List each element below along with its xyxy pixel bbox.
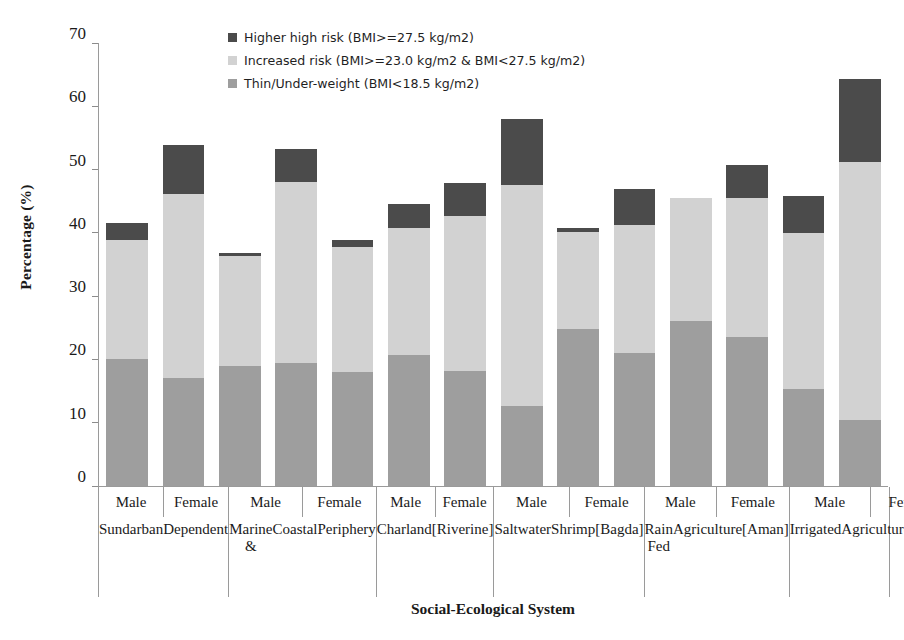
chart-legend: Higher high risk (BMI>=27.5 kg/m2)Increa… (228, 27, 585, 96)
x-axis-title: Social-Ecological System (98, 600, 888, 618)
legend-label: Thin/Under-weight (BMI<18.5 kg/m2) (244, 76, 479, 91)
x-tick-label-male: Male (790, 487, 871, 517)
bar-segment (163, 145, 205, 194)
bar-segment (275, 182, 317, 362)
legend-swatch-icon (228, 56, 237, 65)
bar-segment (783, 389, 825, 486)
x-tick-label-male: Male (229, 487, 303, 517)
x-tick-label-male: Male (377, 487, 436, 517)
bar-segment (219, 366, 261, 486)
bar-segment (106, 240, 148, 359)
bar[interactable] (557, 228, 599, 486)
bar[interactable] (219, 253, 261, 486)
x-group: MaleFemaleSundarbanDependent (99, 487, 229, 597)
x-tick-label-male: Male (494, 487, 569, 517)
bar-segment (332, 372, 374, 486)
legend-item[interactable]: Thin/Under-weight (BMI<18.5 kg/m2) (228, 73, 585, 94)
legend-label: Increased risk (BMI>=23.0 kg/m2 & BMI<27… (244, 53, 585, 68)
bar-segment (726, 165, 768, 199)
bar[interactable] (614, 189, 656, 486)
x-group: MaleFemaleCharland[Riverine] (377, 487, 495, 597)
bar-segment (839, 420, 881, 486)
bar-segment (388, 355, 430, 486)
bar-segment (726, 337, 768, 486)
x-group: MaleFemaleSaltwaterShrimp[Bagda] (494, 487, 644, 597)
bar[interactable] (444, 183, 486, 486)
bar-segment (163, 194, 205, 379)
bar-segment (501, 185, 543, 405)
x-tick-label-male: Male (645, 487, 718, 517)
x-tick-label-female: Female (164, 487, 228, 517)
bar-segment (614, 353, 656, 486)
bar[interactable] (839, 79, 881, 486)
bar[interactable] (726, 165, 768, 486)
x-tick-label-female: Female (570, 487, 644, 517)
x-tick-label-female: Female (303, 487, 376, 517)
x-group: MaleFemaleRain FedAgriculture[Aman] (645, 487, 790, 597)
x-group: MaleFemaleMarine &CoastalPeriphery (229, 487, 377, 597)
bar[interactable] (501, 119, 543, 486)
bar-segment (219, 256, 261, 365)
bar-segment (839, 79, 881, 162)
bar[interactable] (783, 196, 825, 486)
bar-segment (444, 183, 486, 216)
bar-segment (106, 359, 148, 486)
bar-segment (106, 223, 148, 241)
legend-swatch-icon (228, 33, 237, 42)
bar-segment (332, 247, 374, 372)
x-gender-row: MaleFemale (494, 487, 643, 517)
bar-segment (388, 228, 430, 355)
x-group-label: SaltwaterShrimp[Bagda] (494, 517, 643, 597)
legend-label: Higher high risk (BMI>=27.5 kg/m2) (244, 30, 474, 45)
x-group-label: SundarbanDependent (99, 517, 228, 597)
x-group-label: IrrigatedAgriculture[Boro] (790, 517, 904, 597)
x-gender-row: MaleFemale (229, 487, 376, 517)
bar[interactable] (106, 223, 148, 486)
stacked-bar-chart: Percentage (%) 706050403020100 Higher hi… (0, 0, 904, 640)
bar-segment (557, 329, 599, 486)
bar-segment (839, 162, 881, 420)
bar[interactable] (275, 149, 317, 486)
y-axis-ticks: 706050403020100 (0, 0, 98, 640)
bar-segment (557, 232, 599, 329)
bar-segment (783, 196, 825, 233)
bar-segment (670, 198, 712, 321)
bar-segment (332, 240, 374, 247)
bar[interactable] (670, 198, 712, 486)
bar-segment (163, 378, 205, 486)
legend-item[interactable]: Higher high risk (BMI>=27.5 kg/m2) (228, 27, 585, 48)
bar[interactable] (388, 204, 430, 486)
x-tick-label-female: Female (436, 487, 494, 517)
x-tick-label-male: Male (99, 487, 164, 517)
bar-segment (670, 321, 712, 486)
bar[interactable] (332, 240, 374, 486)
legend-swatch-icon (228, 79, 237, 88)
legend-item[interactable]: Increased risk (BMI>=23.0 kg/m2 & BMI<27… (228, 50, 585, 71)
bar-segment (501, 406, 543, 486)
bar-segment (444, 371, 486, 486)
x-gender-row: MaleFemale (99, 487, 228, 517)
x-gender-row: MaleFemale (645, 487, 789, 517)
x-tick-label-female: Female (871, 487, 904, 517)
bar-segment (614, 189, 656, 225)
bar-segment (444, 216, 486, 371)
bar-segment (388, 204, 430, 228)
bar-segment (783, 233, 825, 389)
plot-area (99, 43, 888, 486)
x-group-label: Charland[Riverine] (377, 517, 494, 597)
bar[interactable] (163, 145, 205, 486)
x-group-label: Marine &CoastalPeriphery (229, 517, 376, 597)
x-group-label: Rain FedAgriculture[Aman] (645, 517, 789, 597)
bar-segment (726, 198, 768, 337)
bar-segment (614, 225, 656, 353)
x-gender-row: MaleFemale (790, 487, 904, 517)
x-axis-group-labels: MaleFemaleSundarbanDependentMaleFemaleMa… (98, 487, 890, 597)
x-tick-label-female: Female (717, 487, 789, 517)
x-group: MaleFemaleIrrigatedAgriculture[Boro] (790, 487, 904, 597)
bar-segment (275, 363, 317, 486)
bar-segment (501, 119, 543, 185)
bar-segment (275, 149, 317, 183)
x-gender-row: MaleFemale (377, 487, 494, 517)
